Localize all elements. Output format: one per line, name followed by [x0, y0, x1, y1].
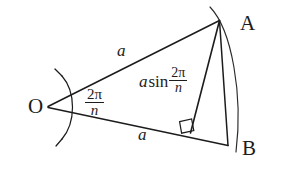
- angle-fraction-denominator: n: [89, 103, 101, 118]
- vertex-label-a: A: [240, 13, 255, 34]
- geometry-figure: O A B a a a sin 2π n 2π n: [0, 0, 282, 182]
- angle-fraction: 2π n: [85, 87, 104, 118]
- angle-arc-tick-upper: [55, 69, 62, 76]
- height-fraction-denominator: n: [173, 81, 184, 95]
- side-label-ob: a: [138, 126, 147, 143]
- vertex-label-b: B: [242, 138, 256, 159]
- vertex-label-o: O: [28, 96, 43, 117]
- side-label-oa: a: [117, 42, 126, 59]
- angle-arc-at-o: [62, 76, 73, 139]
- height-fraction: 2π n: [169, 66, 187, 95]
- segment-side-oa: [48, 21, 220, 107]
- height-expression-label: a sin 2π n: [139, 67, 187, 96]
- segment-height-a-foot: [191, 21, 220, 134]
- angle-arc-tick-lower: [56, 139, 62, 146]
- angle-fraction-numerator: 2π: [85, 87, 104, 102]
- height-fraction-numerator: 2π: [169, 66, 187, 80]
- angle-label-at-o: 2π n: [85, 88, 104, 119]
- height-coefficient: a: [139, 73, 149, 90]
- height-function-name: sin: [149, 73, 170, 90]
